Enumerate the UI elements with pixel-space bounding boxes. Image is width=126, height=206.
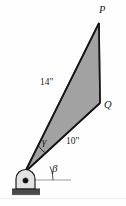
dimension-label-10in: 10" — [66, 137, 79, 147]
pin-hole — [23, 178, 28, 183]
ground-hatch-block — [12, 190, 40, 194]
plate-edge-PQ — [99, 23, 100, 103]
vertex-label-q: Q — [104, 100, 112, 111]
angle-label-beta: β — [52, 163, 57, 174]
figure-canvas: P Q 14" 10" γ β — [0, 0, 126, 206]
angle-label-gamma: γ — [42, 136, 46, 147]
dimension-label-14in: 14" — [40, 78, 53, 88]
bottom-divider — [0, 198, 126, 199]
vertex-label-p: P — [99, 5, 105, 16]
pinned-support — [12, 170, 40, 195]
